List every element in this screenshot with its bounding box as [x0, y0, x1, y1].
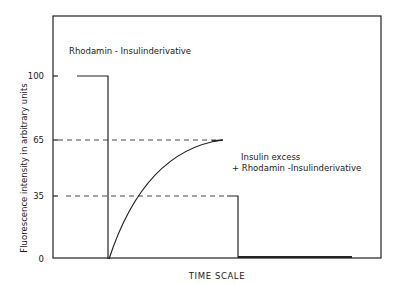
annotation-rhodamin-plus: + Rhodamin -Insulinderivative [232, 163, 361, 173]
ytick-100: 100 [28, 71, 44, 81]
x-axis-label: TIME SCALE [188, 271, 245, 281]
ytick-0: 0 [39, 254, 44, 264]
initial-step-line [77, 76, 108, 259]
rise-curve [109, 140, 222, 259]
ytick-35: 35 [33, 191, 44, 201]
chart: 100 65 35 0 Rhodamin - Insulinderivative… [0, 0, 400, 284]
annotation-insulin-excess: Insulin excess [241, 152, 301, 162]
excess-step-line [227, 196, 352, 257]
curve-plateau [212, 140, 223, 141]
annotation-rhodamin: Rhodamin - Insulinderivative [69, 46, 191, 56]
ytick-65: 65 [33, 135, 44, 145]
y-axis-label: Fluorescence intensity in arbitrary unit… [19, 83, 29, 253]
